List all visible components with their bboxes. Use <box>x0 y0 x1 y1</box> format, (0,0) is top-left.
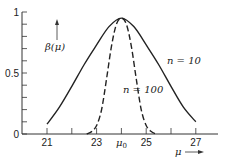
x-tick-label: 21 <box>41 137 53 148</box>
x-tick-label: 23 <box>91 137 103 148</box>
y-tick-label: 0 <box>13 129 19 140</box>
x-tick-label: 25 <box>141 137 153 148</box>
curve-n10 <box>47 18 196 124</box>
y-axis-label: β(μ) <box>44 41 65 52</box>
label-n10: n = 10 <box>167 55 202 66</box>
x-axis-label: μ <box>175 146 182 157</box>
axes <box>22 12 218 134</box>
x-arrowhead-icon <box>198 150 204 154</box>
power-curve-chart: 00.512123μ02527 β(μ) μ n = 10 n = 100 <box>0 0 226 159</box>
ticks <box>22 12 196 134</box>
y-arrowhead-icon <box>55 19 59 25</box>
curve-n100 <box>87 18 156 134</box>
x-tick-label: μ0 <box>116 137 127 150</box>
tick-labels: 00.512123μ02527 <box>5 7 202 150</box>
y-tick-label: 0.5 <box>5 68 19 79</box>
label-n100: n = 100 <box>123 84 164 95</box>
y-tick-label: 1 <box>13 7 19 18</box>
x-tick-label: 27 <box>190 137 202 148</box>
